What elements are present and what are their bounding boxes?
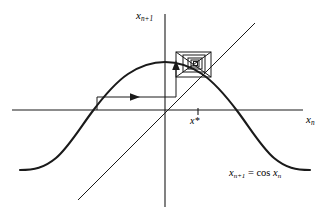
cobweb-plot: [0, 0, 329, 220]
equation-rhs-sub: n: [278, 172, 281, 179]
x-axis-label: xn: [306, 114, 315, 127]
y-axis-label-sub: n+1: [141, 15, 153, 23]
equation-label: xn+1 = cos xn: [229, 168, 281, 180]
fixed-point-label: x*: [190, 116, 199, 126]
x-axis-label-sub: n: [311, 119, 315, 127]
cobweb-figure: xn+1 xn x* xn+1 = cos xn: [0, 0, 329, 220]
equation-lhs-sub: n+1: [234, 172, 246, 179]
cobweb-arrow-right: [130, 93, 140, 101]
equation-rhs-function: cos: [256, 167, 270, 178]
y-axis-label: xn+1: [136, 10, 153, 23]
